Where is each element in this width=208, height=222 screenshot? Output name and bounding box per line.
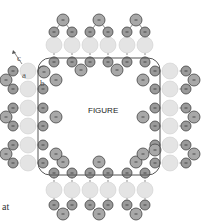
bottom-pale-unit: [119, 182, 135, 198]
right-pale-unit: [162, 155, 178, 171]
bonds-layer: [5, 20, 195, 214]
top-pale-unit: [64, 37, 80, 53]
label-a: a: [22, 70, 26, 80]
right-pale-unit: [162, 118, 178, 134]
units-layer: [0, 14, 200, 220]
top-pale-unit: [46, 37, 62, 53]
bottom-pale-unit: [64, 182, 80, 198]
left-pale-unit: [20, 81, 36, 97]
right-pale-unit: [162, 100, 178, 116]
left-pale-unit: [20, 118, 36, 134]
bottom-pale-unit: [137, 182, 153, 198]
top-pale-unit: [82, 37, 98, 53]
right-pale-unit: [162, 81, 178, 97]
right-pale-unit: [162, 137, 178, 153]
bottom-pale-unit: [46, 182, 62, 198]
bottom-pale-unit: [100, 182, 116, 198]
label-b: b: [40, 78, 45, 88]
left-pale-unit: [20, 155, 36, 171]
top-pale-unit: [119, 37, 135, 53]
bottom-pale-unit: [82, 182, 98, 198]
top-pale-unit: [100, 37, 116, 53]
left-pale-unit: [20, 137, 36, 153]
top-pale-unit: [137, 37, 153, 53]
right-pale-unit: [162, 63, 178, 79]
caption-fragment: at: [2, 201, 9, 212]
figure-label: FIGURE: [88, 106, 118, 115]
left-pale-unit: [20, 100, 36, 116]
figure-diagram: FIGURE a b c at: [0, 0, 208, 222]
arrow-head-icon: [12, 50, 16, 54]
